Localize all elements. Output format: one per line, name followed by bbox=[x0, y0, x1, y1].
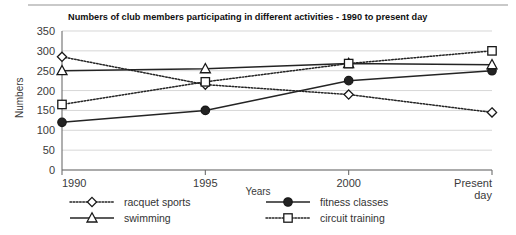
y-axis-title: Numbers bbox=[14, 77, 25, 118]
data-point-marker bbox=[201, 106, 209, 114]
legend-item-swimming[interactable]: swimming bbox=[70, 212, 171, 224]
legend-item-fitness-classes[interactable]: fitness classes bbox=[266, 196, 388, 208]
data-point-marker bbox=[344, 90, 353, 99]
y-axis-tick-label: 150 bbox=[37, 104, 55, 116]
data-point-marker bbox=[488, 47, 496, 55]
legend-item-circuit-training[interactable]: circuit training bbox=[266, 212, 385, 224]
chart-container: Numbers of club members participating in… bbox=[0, 0, 516, 235]
legend-item-racquet-sports[interactable]: racquet sports bbox=[70, 196, 191, 208]
x-axis-tick-label: 1990 bbox=[62, 177, 86, 189]
data-point-marker bbox=[57, 52, 66, 61]
data-point-marker bbox=[201, 78, 209, 86]
gridlines-group bbox=[62, 31, 492, 170]
data-series-group bbox=[57, 47, 497, 127]
legend-label: swimming bbox=[124, 212, 171, 224]
x-axis-tick-label: day bbox=[474, 189, 492, 201]
series-line bbox=[62, 71, 492, 123]
x-axis-tick-label: 1995 bbox=[193, 177, 217, 189]
y-axis-tick-labels: 050100150200250300350 bbox=[37, 25, 55, 176]
line-chart-svg: Numbers of club members participating in… bbox=[0, 0, 516, 235]
circle-filled-marker-icon bbox=[284, 198, 292, 206]
legend-label: racquet sports bbox=[124, 196, 191, 208]
data-point-marker bbox=[58, 100, 66, 108]
chart-legend: racquet sportsfitness classesswimmingcir… bbox=[70, 196, 388, 224]
diamond-open-marker-icon bbox=[87, 197, 96, 206]
data-point-marker bbox=[344, 76, 352, 84]
series-line bbox=[62, 57, 492, 113]
series-racquet-sports bbox=[57, 52, 496, 117]
y-axis-tick-label: 100 bbox=[37, 124, 55, 136]
x-axis-tick-label: Present bbox=[454, 177, 492, 189]
square-open-marker-icon bbox=[284, 214, 292, 222]
y-axis-tick-label: 0 bbox=[49, 164, 55, 176]
series-line bbox=[62, 64, 492, 71]
x-axis-title: Years bbox=[245, 186, 270, 197]
data-point-marker bbox=[58, 118, 66, 126]
y-axis-tick-label: 300 bbox=[37, 45, 55, 57]
data-point-marker bbox=[344, 59, 352, 67]
legend-label: circuit training bbox=[320, 212, 385, 224]
series-line bbox=[62, 51, 492, 105]
x-axis-tick-label: 2000 bbox=[336, 177, 360, 189]
legend-label: fitness classes bbox=[320, 196, 388, 208]
y-axis-tick-label: 50 bbox=[43, 144, 55, 156]
data-point-marker bbox=[487, 108, 496, 117]
x-axis-tickmarks bbox=[62, 170, 492, 175]
y-axis-tick-label: 250 bbox=[37, 65, 55, 77]
y-axis-tick-label: 350 bbox=[37, 25, 55, 37]
series-circuit-training bbox=[58, 47, 496, 109]
series-fitness-classes bbox=[58, 67, 496, 127]
y-axis-tick-label: 200 bbox=[37, 85, 55, 97]
chart-title: Numbers of club members participating in… bbox=[68, 12, 428, 22]
